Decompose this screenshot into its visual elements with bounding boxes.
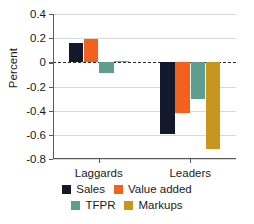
y-tick-label: -0.6	[26, 129, 46, 141]
x-tick-label-laggards: Laggards	[75, 167, 123, 179]
bar	[160, 62, 175, 133]
y-axis-title: Percent	[7, 28, 23, 108]
legend-swatch-icon	[62, 185, 71, 194]
bar-chart: Percent 0.40.20-0.2-0.4-0.6-0.8 Laggards…	[0, 0, 254, 224]
bar	[114, 61, 129, 62]
y-tick-label: -0.4	[26, 105, 46, 117]
legend-row: SalesValue added	[0, 184, 254, 196]
y-tick-mark	[49, 159, 53, 160]
gridline	[53, 14, 236, 15]
y-axis-spine	[53, 14, 54, 159]
x-tick-mark	[190, 159, 191, 163]
x-tick-mark	[99, 159, 100, 163]
plot-area: 0.40.20-0.2-0.4-0.6-0.8 LaggardsLeaders	[53, 14, 236, 159]
legend-swatch-icon	[114, 185, 123, 194]
legend-item-sales: Sales	[62, 184, 105, 196]
y-tick-label: 0.4	[30, 8, 46, 20]
y-tick-label: -0.8	[26, 153, 46, 165]
legend-label: Markups	[138, 200, 182, 212]
bar	[191, 62, 206, 98]
legend-row: TFPRMarkups	[0, 200, 254, 212]
legend-label: Sales	[76, 184, 105, 196]
bar	[69, 43, 84, 62]
legend-item-markups: Markups	[124, 200, 182, 212]
bar	[99, 62, 114, 73]
x-tick-label-leaders: Leaders	[169, 167, 211, 179]
bar	[206, 62, 221, 149]
gridline	[53, 38, 236, 39]
x-axis-spine	[53, 158, 236, 159]
plot-frame: 0.40.20-0.2-0.4-0.6-0.8 LaggardsLeaders	[53, 14, 236, 159]
legend-label: TFPR	[85, 200, 115, 212]
y-tick-label: 0	[40, 56, 46, 68]
legend-swatch-icon	[124, 201, 133, 210]
legend-item-value-added: Value added	[114, 184, 192, 196]
y-tick-label: -0.2	[26, 81, 46, 93]
legend-item-tfpr: TFPR	[71, 200, 115, 212]
bar	[84, 39, 99, 62]
legend-label: Value added	[128, 184, 192, 196]
chart-legend: SalesValue addedTFPRMarkups	[0, 184, 254, 215]
legend-swatch-icon	[71, 201, 80, 210]
y-tick-label: 0.2	[30, 32, 46, 44]
gridline	[53, 159, 236, 160]
bar	[175, 62, 190, 113]
